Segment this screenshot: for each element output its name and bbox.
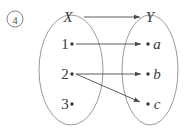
domain-element-dot-1: [70, 42, 73, 45]
codomain-element-dot-c: [146, 102, 149, 105]
domain-set-label: X: [62, 9, 73, 25]
domain-element-label-2: 2: [61, 66, 69, 82]
domain-set-ellipse: [39, 15, 103, 125]
codomain-element-label-c: c: [154, 96, 161, 112]
arrow-2-to-c: [76, 74, 140, 102]
mapping-diagram: 4 X Y 1 2 3 a b c: [0, 0, 192, 131]
codomain-set-label: Y: [146, 9, 156, 25]
domain-element-dot-3: [70, 102, 73, 105]
codomain-set-ellipse: [122, 15, 178, 125]
codomain-element-dot-a: [146, 42, 149, 45]
domain-element-label-1: 1: [61, 36, 69, 52]
figure-canvas: 4 X Y 1 2 3 a b c: [0, 0, 192, 131]
codomain-element-label-a: a: [153, 36, 161, 52]
domain-element-label-3: 3: [61, 96, 69, 112]
circled-number-icon: 4: [7, 11, 23, 27]
figure-marker-label: 4: [12, 14, 18, 26]
domain-element-dot-2: [70, 72, 73, 75]
codomain-element-label-b: b: [153, 66, 161, 82]
codomain-element-dot-b: [146, 72, 149, 75]
